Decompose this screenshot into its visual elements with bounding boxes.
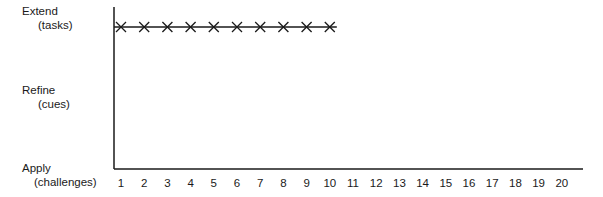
x-tick-label: 15 — [439, 177, 452, 189]
x-tick-label: 16 — [463, 177, 476, 189]
x-tick-label: 9 — [303, 177, 309, 189]
x-tick-label: 19 — [532, 177, 545, 189]
y-category-sublabel: (cues) — [38, 98, 70, 110]
x-tick-label: 20 — [555, 177, 568, 189]
y-category-label: Extend — [22, 5, 58, 17]
x-tick-label: 5 — [211, 177, 217, 189]
x-tick-label: 6 — [234, 177, 240, 189]
x-tick-label: 17 — [486, 177, 499, 189]
x-axis-ticks: 1234567891011121314151617181920 — [118, 177, 568, 189]
x-tick-label: 8 — [280, 177, 286, 189]
x-tick-label: 13 — [393, 177, 406, 189]
x-tick-label: 12 — [370, 177, 383, 189]
y-category-label: Refine — [22, 84, 55, 96]
y-axis-labels: Extend(tasks)Refine(cues)Apply(challenge… — [22, 5, 97, 188]
x-tick-label: 11 — [347, 177, 359, 189]
x-tick-label: 14 — [416, 177, 429, 189]
x-tick-label: 10 — [323, 177, 336, 189]
series — [114, 22, 337, 32]
y-category-sublabel: (challenges) — [34, 176, 97, 188]
x-tick-label: 3 — [164, 177, 170, 189]
x-tick-label: 7 — [257, 177, 263, 189]
x-tick-label: 18 — [509, 177, 522, 189]
x-tick-label: 2 — [141, 177, 147, 189]
x-tick-label: 1 — [118, 177, 124, 189]
y-category-sublabel: (tasks) — [38, 19, 73, 31]
y-category-label: Apply — [22, 162, 51, 174]
chart: Extend(tasks)Refine(cues)Apply(challenge… — [0, 0, 603, 197]
x-tick-label: 4 — [187, 177, 194, 189]
